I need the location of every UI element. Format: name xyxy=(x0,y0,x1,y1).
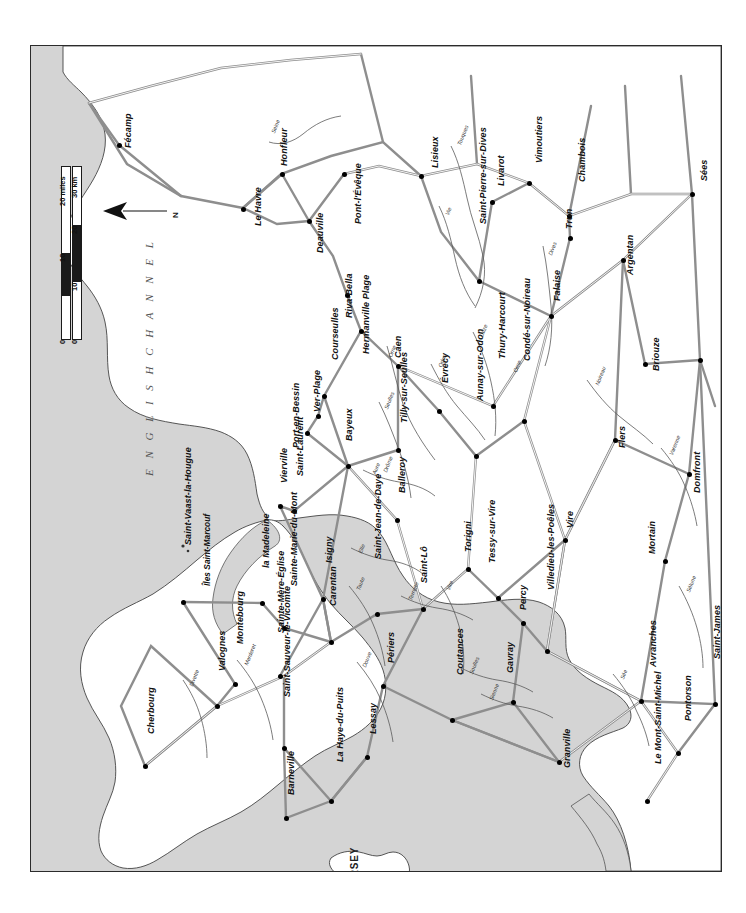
town-dot[interactable] xyxy=(181,600,186,605)
town-dot[interactable] xyxy=(305,431,310,436)
town-dot[interactable] xyxy=(419,174,424,179)
town-dot[interactable] xyxy=(527,181,532,186)
town-dot[interactable] xyxy=(474,454,479,459)
town-dot[interactable] xyxy=(568,236,573,241)
page: FécampLe HavreHonfleurDeauvillePont-l'Év… xyxy=(0,0,746,913)
town-dot[interactable] xyxy=(143,764,148,769)
scale-tick-km-0: 0 xyxy=(70,340,79,344)
town-dot[interactable] xyxy=(396,364,401,369)
town-dot[interactable] xyxy=(557,760,562,765)
town-dot[interactable] xyxy=(278,504,283,509)
town-dot[interactable] xyxy=(549,314,554,319)
town-dot[interactable] xyxy=(396,448,401,453)
scale-tick-miles-10: 10 xyxy=(58,254,67,262)
town-dot[interactable] xyxy=(117,143,122,148)
town-dot[interactable] xyxy=(713,702,718,707)
town-dot[interactable] xyxy=(639,699,644,704)
town-dot[interactable] xyxy=(375,612,380,617)
town-dot[interactable] xyxy=(421,607,426,612)
town-dot[interactable] xyxy=(466,567,471,572)
town-dot[interactable] xyxy=(437,409,442,414)
scale-label-miles: 20 miles xyxy=(58,176,67,206)
town-dot[interactable] xyxy=(345,293,350,298)
river-layer xyxy=(31,46,721,871)
town-dot[interactable] xyxy=(621,258,626,263)
town-dot[interactable] xyxy=(346,464,351,469)
town-dot[interactable] xyxy=(645,799,650,804)
town-dot[interactable] xyxy=(215,704,220,709)
scale-label-km: 30 km xyxy=(70,177,79,198)
town-dot[interactable] xyxy=(663,559,668,564)
town-dot[interactable] xyxy=(490,200,495,205)
town-dot[interactable] xyxy=(698,358,703,363)
town-dot[interactable] xyxy=(282,626,287,631)
town-dot[interactable] xyxy=(690,192,695,197)
town-dot[interactable] xyxy=(381,684,386,689)
town-dot[interactable] xyxy=(322,394,327,399)
town-dot[interactable] xyxy=(450,718,455,723)
north-arrow-icon xyxy=(101,196,191,226)
town-dot[interactable] xyxy=(491,404,496,409)
town-dot[interactable] xyxy=(511,700,516,705)
scale-tick-miles-0: 0 xyxy=(58,340,67,344)
town-dot[interactable] xyxy=(316,414,321,419)
town-dot[interactable] xyxy=(676,751,681,756)
town-dot[interactable] xyxy=(292,509,297,514)
map-frame: FécampLe HavreHonfleurDeauvillePont-l'Év… xyxy=(30,45,722,872)
town-dot[interactable] xyxy=(613,438,618,443)
town-dot[interactable] xyxy=(567,214,572,219)
town-dot[interactable] xyxy=(521,621,526,626)
town-dot[interactable] xyxy=(545,649,550,654)
town-dot[interactable] xyxy=(643,362,648,367)
town-dot[interactable] xyxy=(395,518,400,523)
town-dot[interactable] xyxy=(522,419,527,424)
town-dot[interactable] xyxy=(496,596,501,601)
scale-tick-km-20: 20 xyxy=(70,226,79,234)
north-arrow-label: N xyxy=(171,212,180,218)
town-dot[interactable] xyxy=(282,746,287,751)
scale-bar: 0 10 20 miles 0 10 20 30 km xyxy=(55,166,85,376)
town-dot[interactable] xyxy=(321,597,326,602)
town-dot[interactable] xyxy=(260,601,265,606)
town-dot[interactable] xyxy=(329,640,334,645)
town-dot[interactable] xyxy=(477,279,482,284)
town-dot[interactable] xyxy=(365,755,370,760)
town-dot[interactable] xyxy=(359,329,364,334)
town-dot[interactable] xyxy=(687,472,692,477)
north-arrow: N xyxy=(101,196,191,226)
town-dot[interactable] xyxy=(284,816,289,821)
town-dot[interactable] xyxy=(329,799,334,804)
town-dot[interactable] xyxy=(563,538,568,543)
town-dot[interactable] xyxy=(233,682,238,687)
town-dot[interactable] xyxy=(307,219,312,224)
town-dot[interactable] xyxy=(241,207,246,212)
town-dot[interactable] xyxy=(280,172,285,177)
town-dot[interactable] xyxy=(278,674,283,679)
town-dot[interactable] xyxy=(342,172,347,177)
scale-tick-km-10: 10 xyxy=(70,283,79,291)
